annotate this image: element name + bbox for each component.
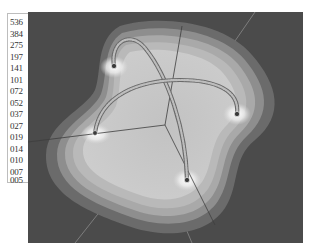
legend-label: 101 — [10, 76, 23, 85]
node-bottom[interactable] — [184, 177, 189, 182]
legend-label: 027 — [10, 122, 23, 131]
legend-label: 197 — [10, 53, 23, 62]
contour-layers — [46, 21, 275, 234]
legend-label: 005 — [10, 176, 23, 185]
legend-label: 384 — [10, 30, 23, 39]
legend-label: 536 — [10, 18, 23, 27]
legend-label: 275 — [10, 41, 23, 50]
legend-label: 019 — [10, 133, 23, 142]
contour-scene — [28, 12, 303, 243]
color-legend: 536 384 275 197 141 101 072 052 037 027 … — [7, 13, 28, 183]
node-right[interactable] — [234, 111, 239, 116]
legend-label: 072 — [10, 87, 23, 96]
3d-viewport[interactable] — [28, 12, 303, 243]
node-top-left[interactable] — [111, 63, 116, 68]
node-left[interactable] — [93, 131, 98, 136]
legend-label: 014 — [10, 145, 23, 154]
legend-label: 010 — [10, 156, 23, 165]
legend-label: 141 — [10, 64, 23, 73]
legend-label: 052 — [10, 99, 23, 108]
legend-label: 037 — [10, 110, 23, 119]
